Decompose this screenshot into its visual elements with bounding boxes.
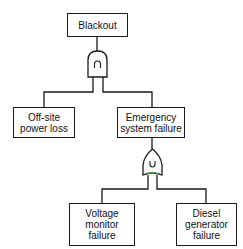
event-label: Blackout — [78, 20, 116, 31]
event-label: Diesel — [193, 208, 221, 219]
event-diesel-generator-failure: Diesel generator failure — [176, 203, 237, 246]
event-label: Voltage — [85, 208, 118, 219]
connector-line — [157, 175, 206, 203]
event-emergency-system-failure: Emergency system failure — [117, 107, 185, 138]
event-label: failure — [88, 230, 115, 241]
or-gate-icon — [143, 149, 162, 175]
event-label: system failure — [120, 123, 182, 134]
event-offsite-power-loss: Off-site power loss — [13, 107, 75, 138]
event-label: failure — [193, 230, 220, 241]
event-label: Emergency — [126, 112, 177, 123]
event-blackout: Blackout — [67, 13, 128, 37]
event-label: Off-site — [28, 112, 60, 123]
event-label: power loss — [20, 123, 68, 134]
event-label: monitor — [85, 219, 118, 230]
connector-line — [44, 77, 93, 107]
connector-line — [102, 175, 148, 203]
event-voltage-monitor-failure: Voltage monitor failure — [69, 203, 135, 246]
event-label: generator — [185, 219, 228, 230]
and-gate-icon — [88, 51, 107, 77]
connector-line — [103, 77, 152, 107]
